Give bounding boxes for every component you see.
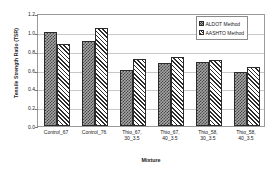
x-axis-tick-label-line: 30_3.5 — [122, 135, 141, 141]
legend-label: ALDOT Method — [206, 21, 241, 27]
y-axis-tick-label: 1.2 — [18, 11, 35, 17]
chart-legend: ALDOT MethodAASHTO Method — [196, 16, 248, 40]
x-axis-tick-label: Thio_67,30_3.5 — [122, 129, 141, 142]
y-axis-tick-label: 0.4 — [18, 86, 35, 92]
y-axis-tick-label: 0.0 — [18, 124, 35, 130]
y-axis-tick-labels: 1.21.00.80.60.40.20.0 — [18, 14, 35, 127]
x-axis-tick-label: Thio_58,40_3.5 — [236, 129, 255, 142]
y-axis-tick-mark — [35, 127, 38, 128]
x-axis-tick-label: Control_76 — [82, 129, 106, 135]
legend-entry: ALDOT Method — [199, 19, 244, 28]
bar — [234, 72, 247, 126]
bar — [247, 67, 260, 126]
y-axis-tick-label: 0.6 — [18, 68, 35, 74]
x-axis-tick-label-line: 40_3.5 — [160, 135, 179, 141]
legend-swatch-icon — [199, 30, 204, 35]
tensile-strength-ratio-bar-chart: Tensile Strength Ratio (TSR) 1.21.00.80.… — [0, 0, 275, 176]
x-axis-tick-label-line: 40_3.5 — [236, 135, 255, 141]
x-axis-tick-label-line: Control_67 — [44, 129, 68, 135]
x-axis-title: Mixture — [37, 157, 265, 163]
y-axis-tick-label: 0.2 — [18, 105, 35, 111]
x-axis-tick-label: Thio_67,40_3.5 — [160, 129, 179, 142]
y-axis-tick-label: 0.8 — [18, 49, 35, 55]
legend-swatch-icon — [199, 21, 204, 26]
y-axis-tick-label: 1.0 — [18, 30, 35, 36]
x-axis-tick-labels: Control_67Control_76Thio_67,30_3.5Thio_6… — [37, 129, 265, 153]
x-axis-tick-label-line: 30_3.5 — [198, 135, 217, 141]
x-axis-tick-label-line: Control_76 — [82, 129, 106, 135]
x-axis-tick-label: Control_67 — [44, 129, 68, 135]
legend-label: AASHTO Method — [206, 30, 245, 36]
x-axis-tick-label: Thio_58,30_3.5 — [198, 129, 217, 142]
legend-entry: AASHTO Method — [199, 28, 244, 37]
